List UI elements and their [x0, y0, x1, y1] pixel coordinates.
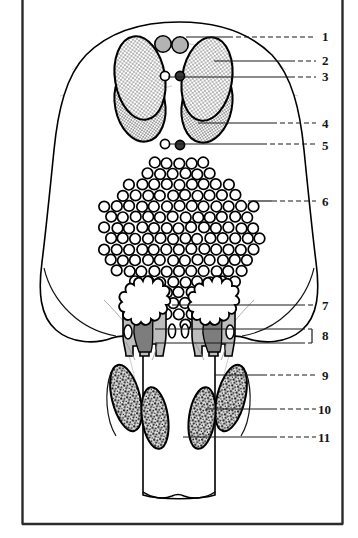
cell-ring	[211, 223, 222, 234]
cell-ring	[180, 190, 191, 201]
cell-ring	[204, 255, 215, 266]
cell-ring	[180, 277, 191, 288]
cell-ring	[155, 212, 166, 223]
cell-ring	[168, 277, 179, 288]
cell-ring	[137, 222, 148, 233]
cell-ring	[161, 244, 172, 255]
cell-ring	[106, 211, 117, 222]
cell-ring	[99, 201, 110, 212]
cell-ring	[117, 233, 128, 244]
cell-ring	[192, 169, 203, 180]
cell-ring	[204, 190, 215, 201]
cell-ring	[217, 212, 228, 223]
cell-ring	[193, 212, 204, 223]
cell-ring	[198, 157, 209, 168]
cell-ring	[149, 266, 160, 277]
cell-ring	[168, 255, 179, 266]
cell-ring	[130, 234, 141, 245]
label-number-9: 9	[322, 369, 329, 382]
cell-ring	[224, 179, 235, 190]
cell-ring	[99, 222, 110, 233]
cell-ring	[180, 212, 191, 223]
cell-ring	[143, 190, 154, 201]
cell-ring	[162, 179, 173, 190]
cell-ring	[248, 244, 259, 255]
label-number-3: 3	[322, 70, 329, 83]
figure-panel: 1234567891011	[0, 0, 358, 538]
cell-ring	[174, 158, 185, 169]
cell-ring	[187, 179, 198, 190]
cell-ring	[168, 234, 179, 245]
cell-ring	[230, 255, 241, 266]
cell-ring	[155, 169, 166, 180]
cell-ring	[173, 287, 184, 298]
cell-ring	[155, 190, 166, 201]
cell-ring	[211, 244, 222, 255]
cell-ring	[236, 266, 247, 277]
cell-ring	[143, 233, 154, 244]
cell-ring	[180, 233, 191, 244]
cell-ring	[217, 190, 228, 201]
cell-ring	[137, 201, 148, 212]
cell-ring	[223, 201, 234, 212]
cell-ring	[223, 244, 234, 255]
cell-ring	[168, 190, 179, 201]
cell-ring	[210, 179, 221, 190]
cell-ring	[124, 266, 135, 277]
cell-ring	[118, 191, 129, 202]
cell-ring	[136, 266, 147, 277]
cell-ring	[124, 179, 135, 190]
cell-ring	[149, 223, 160, 234]
cell-ring	[242, 212, 253, 223]
cell-ring	[192, 234, 203, 245]
cell-ring	[248, 223, 259, 234]
cell-ring	[186, 266, 197, 277]
cell-ring	[137, 244, 148, 255]
cell-ring	[148, 244, 159, 255]
cell-ring	[130, 190, 141, 201]
cell-ring	[198, 266, 209, 277]
cell-ring	[243, 233, 254, 244]
cell-ring	[111, 244, 122, 255]
cell-ring	[105, 254, 116, 265]
cell-ring	[99, 244, 110, 255]
cell-ring	[211, 201, 222, 212]
cell-ring	[192, 254, 203, 265]
cell-ring	[161, 158, 172, 169]
label-number-10: 10	[318, 403, 331, 416]
cell-ring	[254, 233, 265, 244]
tooth-structure-left	[119, 276, 170, 360]
cell-ring	[106, 233, 117, 244]
label-number-2: 2	[322, 54, 329, 67]
cell-ring	[150, 157, 161, 168]
label-number-11: 11	[318, 431, 330, 444]
cell-ring	[174, 309, 185, 320]
cell-ring	[149, 179, 160, 190]
cell-ring	[204, 168, 215, 179]
label-number-8: 8	[322, 329, 329, 342]
cell-ring	[180, 168, 191, 179]
cell-ring	[155, 233, 166, 244]
cell-ring	[248, 201, 259, 212]
cell-ring	[211, 266, 222, 277]
cell-ring	[118, 212, 129, 223]
cell-ring	[111, 265, 122, 276]
cell-ring	[161, 266, 172, 277]
cell-ring	[155, 255, 166, 266]
cell-ring	[162, 201, 173, 212]
label-number-4: 4	[322, 117, 329, 130]
cell-ring	[186, 158, 197, 169]
tooth-structure-right	[188, 276, 239, 360]
cell-ring	[174, 201, 185, 212]
cell-ring	[167, 169, 178, 180]
cell-ring	[218, 255, 229, 266]
cell-ring	[112, 201, 123, 212]
cell-ring	[180, 255, 191, 266]
cell-ring	[174, 180, 185, 191]
cell-ring	[236, 223, 247, 234]
anatomical-diagram	[0, 0, 358, 538]
cell-ring	[230, 233, 241, 244]
cell-ring	[174, 266, 185, 277]
cell-ring	[130, 211, 141, 222]
cell-ring	[199, 244, 210, 255]
